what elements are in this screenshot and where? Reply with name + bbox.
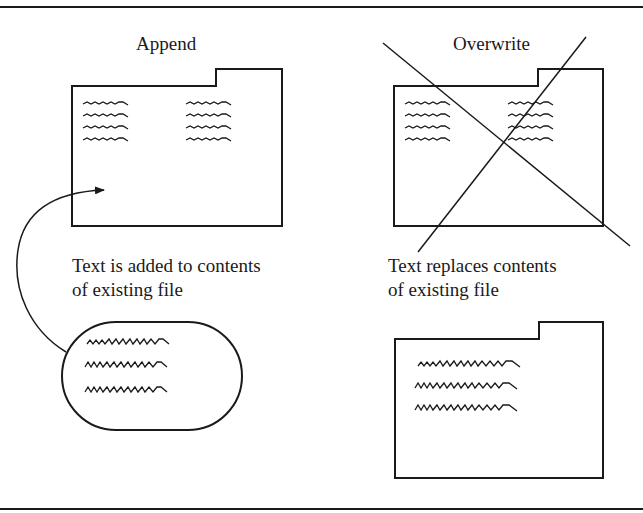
overwrite-caption: Text replaces contents of existing file [388, 254, 557, 302]
append-existing-text-lines-icon [83, 102, 231, 141]
append-vs-overwrite-diagram: Append Overwrite Text is added to conten… [0, 0, 643, 513]
append-title: Append [136, 33, 196, 55]
append-new-text-blob-icon [62, 322, 242, 430]
overwrite-title: Overwrite [453, 33, 530, 55]
overwrite-caption-line-1: Text replaces contents [388, 254, 557, 278]
overwrite-result-file-folder-icon [395, 322, 603, 478]
overwrite-caption-line-2: of existing file [388, 278, 557, 302]
append-existing-file-folder-icon [72, 69, 282, 226]
overwrite-existing-file-folder-icon [394, 69, 603, 226]
append-caption: Text is added to contents of existing fi… [72, 254, 261, 302]
append-caption-line-1: Text is added to contents [72, 254, 261, 278]
append-caption-line-2: of existing file [72, 278, 261, 302]
